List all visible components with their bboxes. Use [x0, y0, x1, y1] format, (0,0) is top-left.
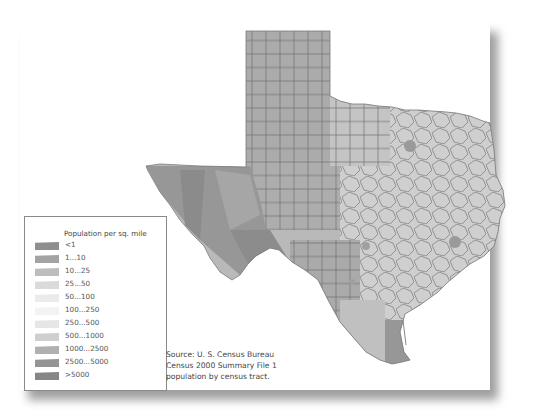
- map-legend: Population per sq. mile <1 1...10 10...2…: [24, 216, 167, 391]
- legend-swatch: [35, 372, 59, 380]
- legend-swatch: [35, 333, 59, 341]
- source-line: Census 2000 Summary File 1: [166, 360, 277, 371]
- legend-swatch: [35, 268, 59, 276]
- source-line: population by census tract.: [166, 371, 277, 382]
- legend-title: Population per sq. mile: [64, 229, 147, 238]
- legend-swatch: [35, 255, 59, 263]
- legend-swatch: [35, 307, 59, 315]
- legend-swatch: [35, 294, 59, 302]
- legend-swatch: [35, 359, 59, 367]
- legend-swatch: [35, 242, 59, 250]
- source-line: Source: U. S. Census Bureau: [166, 349, 277, 360]
- source-note: Source: U. S. Census Bureau Census 2000 …: [166, 349, 277, 382]
- legend-swatch: [35, 281, 59, 289]
- legend-swatch: [35, 346, 59, 354]
- legend-swatch: [35, 320, 59, 328]
